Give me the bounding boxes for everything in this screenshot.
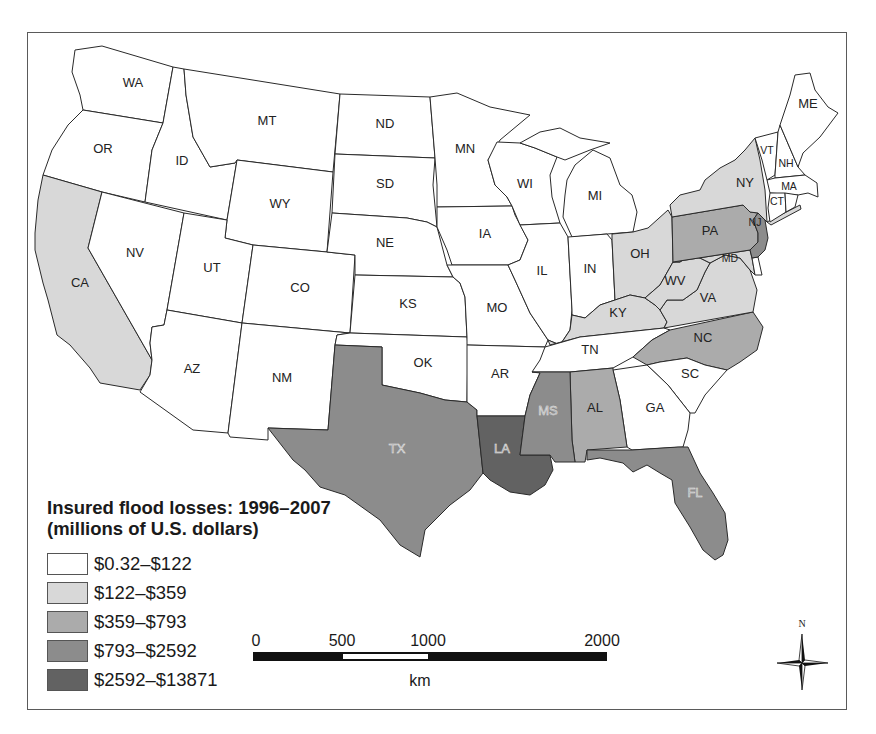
state-label-id: ID — [176, 153, 189, 168]
legend-title: Insured flood losses: 1996–2007 (million… — [47, 497, 331, 539]
legend-swatch — [47, 582, 88, 604]
state-label-fl: FL — [687, 485, 702, 500]
state-label-ky: KY — [609, 305, 627, 320]
state-label-ct: CT — [770, 195, 785, 207]
scale-unit: km — [409, 672, 430, 690]
state-label-ks: KS — [399, 296, 417, 311]
state-label-ut: UT — [203, 260, 220, 275]
states-layer — [35, 46, 838, 560]
legend-item: $122–$359 — [47, 582, 187, 604]
state-label-ma: MA — [781, 180, 797, 192]
state-label-me: ME — [798, 96, 818, 111]
state-label-il: IL — [537, 263, 548, 278]
scale-tick-500: 500 — [329, 632, 356, 650]
state-label-tn: TN — [581, 342, 598, 357]
compass-rose-icon: N — [772, 618, 832, 698]
state-label-oh: OH — [630, 246, 650, 261]
state-label-ga: GA — [646, 400, 665, 415]
state-label-nd: ND — [376, 116, 395, 131]
state-label-nm: NM — [272, 370, 292, 385]
state-label-co: CO — [290, 280, 310, 295]
state-label-or: OR — [93, 141, 113, 156]
state-label-ia: IA — [479, 226, 492, 241]
legend-title-line1: Insured flood losses: 1996–2007 — [47, 497, 331, 518]
scale-tick-2000: 2000 — [584, 632, 620, 650]
state-label-md: MD — [722, 252, 739, 264]
state-label-la: LA — [494, 441, 510, 456]
state-label-sd: SD — [376, 176, 394, 191]
legend-swatch — [47, 669, 88, 691]
state-label-va: VA — [700, 290, 717, 305]
state-label-ca: CA — [71, 275, 89, 290]
state-label-nv: NV — [126, 245, 144, 260]
state-label-nh: NH — [778, 157, 793, 169]
state-label-az: AZ — [184, 361, 201, 376]
state-label-tx: TX — [389, 441, 406, 456]
legend-title-line2: (millions of U.S. dollars) — [47, 518, 331, 539]
state-label-ar: AR — [491, 366, 509, 381]
state-label-sc: SC — [681, 366, 699, 381]
state-label-mi: MI — [588, 188, 602, 203]
legend-item: $2592–$13871 — [47, 669, 217, 691]
state-label-mn: MN — [455, 141, 475, 156]
state-label-mo: MO — [487, 300, 508, 315]
legend-item: $0.32–$122 — [47, 553, 192, 575]
state-label-wa: WA — [123, 75, 144, 90]
state-label-ne: NE — [376, 235, 394, 250]
state-label-vt: VT — [760, 144, 774, 156]
legend-item: $793–$2592 — [47, 640, 197, 662]
legend-swatch — [47, 611, 88, 633]
state-label-al: AL — [587, 400, 603, 415]
state-label-ny: NY — [736, 175, 754, 190]
legend-label: $0.32–$122 — [94, 553, 192, 575]
state-label-mt: MT — [258, 113, 277, 128]
state-label-ms: MS — [538, 403, 558, 418]
legend-swatch — [47, 553, 88, 575]
state-label-nc: NC — [694, 330, 713, 345]
state-label-wv: WV — [665, 273, 686, 288]
north-arrow: N — [772, 618, 832, 702]
legend-label: $122–$359 — [94, 582, 187, 604]
state-label-nj: NJ — [749, 216, 762, 228]
scale-tick-1000: 1000 — [410, 632, 446, 650]
scale-bar — [253, 652, 607, 661]
state-label-wy: WY — [270, 196, 291, 211]
scale-tick-0: 0 — [252, 632, 261, 650]
north-label: N — [798, 618, 805, 629]
legend-label: $359–$793 — [94, 611, 187, 633]
state-label-ok: OK — [414, 355, 433, 370]
legend-item: $359–$793 — [47, 611, 187, 633]
state-fl — [587, 447, 728, 560]
scale-bar-segment — [343, 654, 428, 659]
legend-swatch — [47, 640, 88, 662]
state-label-in: IN — [584, 261, 597, 276]
legend-label: $793–$2592 — [94, 640, 197, 662]
legend-label: $2592–$13871 — [94, 669, 217, 691]
state-label-pa: PA — [702, 223, 719, 238]
state-label-wi: WI — [517, 176, 533, 191]
